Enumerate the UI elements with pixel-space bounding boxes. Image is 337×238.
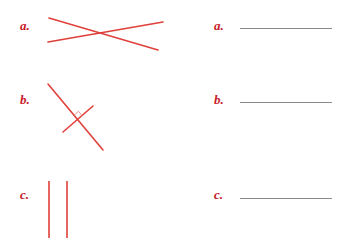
figure-a-intersecting-lines bbox=[48, 18, 163, 50]
figures-canvas bbox=[0, 0, 337, 238]
figure-a-line-2 bbox=[48, 22, 163, 42]
figure-b-line-1 bbox=[48, 84, 103, 150]
answer-b-label: b. bbox=[214, 93, 224, 106]
answer-a-blank[interactable] bbox=[240, 28, 332, 29]
figure-b-line-2 bbox=[63, 106, 93, 132]
answer-b-blank[interactable] bbox=[240, 102, 332, 103]
figure-c-parallel-lines bbox=[49, 181, 67, 238]
figure-a-line-1 bbox=[49, 18, 158, 50]
right-angle-marker-icon bbox=[75, 111, 83, 115]
answer-c-label: c. bbox=[214, 188, 223, 201]
answer-c-blank[interactable] bbox=[240, 198, 332, 199]
figure-b-perpendicular-lines bbox=[48, 84, 103, 150]
answer-a-label: a. bbox=[214, 19, 224, 32]
